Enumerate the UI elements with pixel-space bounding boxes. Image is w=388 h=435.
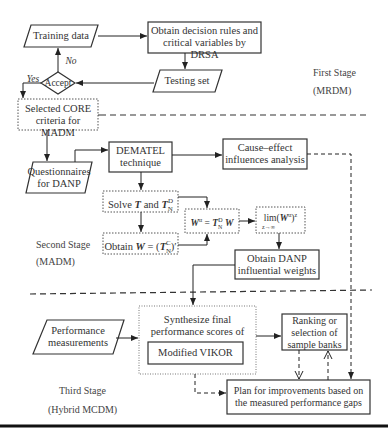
dematel-line1: DEMATEL — [109, 145, 172, 157]
no-label: No — [63, 55, 79, 67]
performance-line2: measurements — [38, 337, 118, 349]
stage-divider-2 — [30, 290, 372, 294]
ranking-line1: Ranking or — [282, 315, 347, 327]
plan-node: Plan for improvements based on the measu… — [227, 385, 370, 409]
first-stage-abbr: (MRDM) — [313, 85, 351, 96]
dematel-node: DEMATEL technique — [109, 145, 172, 169]
selected-core-line2: criteria for MADM — [18, 115, 98, 139]
drsa-node: Obtain decision rules and critical varia… — [148, 25, 261, 61]
selected-core-node: Selected CORE criteria for MADM — [18, 103, 98, 139]
selected-core-line1: Selected CORE — [18, 103, 98, 115]
ranking-line2: selection of — [282, 327, 347, 339]
performance-node: Performance measurements — [38, 325, 118, 349]
second-stage-abbr: (MADM) — [36, 256, 75, 267]
third-stage-label: Third Stage — [59, 385, 106, 396]
questionnaires-node: Questionnaires for DANP — [26, 166, 92, 190]
danp-line2: influential weights — [235, 265, 319, 277]
accept-node: Accept — [41, 77, 75, 89]
limit-node: lim(Wα)zz→∞lim(W^α)^z, z→∞ — [256, 209, 305, 231]
drsa-line1: Obtain decision rules and — [148, 25, 261, 37]
cause-effect-line1: Cause–effect — [223, 142, 307, 154]
questionnaires-line1: Questionnaires — [26, 166, 92, 178]
drsa-line2: critical variables by DRSA — [148, 37, 261, 61]
synthesize-line2: performance scores of — [139, 326, 256, 338]
vikor-node: Modified VIKOR — [148, 347, 243, 359]
yes-label: Yes — [24, 73, 42, 85]
cause-effect-node: Cause–effect influences analysis — [223, 142, 307, 166]
questionnaires-line2: for DANP — [26, 178, 92, 190]
dematel-line2: technique — [109, 157, 172, 169]
testing-set-node: Testing set — [154, 75, 220, 87]
ranking-node: Ranking or selection of sample banks — [282, 315, 347, 351]
cause-effect-line2: influences analysis — [223, 154, 307, 166]
synthesize-node: Synthesize final performance scores of — [139, 314, 256, 338]
synthesize-line1: Synthesize final — [139, 314, 256, 326]
danp-node: Obtain DANP influential weights — [235, 253, 319, 277]
obtain-w-node: Obtain W = (TNC)′Obtain W = (T_N^C)' — [103, 237, 178, 257]
second-stage-label: Second Stage — [36, 239, 90, 250]
plan-line2: the measured performance gaps — [227, 397, 370, 409]
ranking-line3: sample banks — [282, 339, 347, 351]
danp-line1: Obtain DANP — [235, 253, 319, 265]
first-stage-label: First Stage — [313, 67, 356, 78]
solve-t-node: Solve T and TNDSolve T and T_N^D — [103, 195, 178, 215]
third-stage-abbr: (Hybrid MCDM) — [48, 404, 117, 415]
training-data-node: Training data — [26, 30, 96, 42]
performance-line1: Performance — [38, 325, 118, 337]
w-alpha-node: Wα = TND WW^α = T_N^D W — [185, 214, 239, 233]
plan-line1: Plan for improvements based on — [227, 385, 370, 397]
